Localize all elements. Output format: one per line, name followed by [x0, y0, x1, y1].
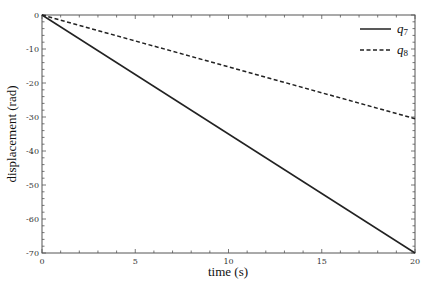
series-line-q8: [42, 15, 415, 119]
legend-label-q8: q8: [397, 42, 409, 58]
y-tick-label: -60: [26, 215, 39, 224]
y-tick-label: -50: [26, 181, 39, 190]
x-tick-label: 15: [317, 257, 327, 266]
legend-label-q7: q7: [397, 21, 409, 37]
legend: q7q8: [360, 21, 409, 58]
y-tick-label: -30: [26, 113, 39, 122]
y-tick-label: -40: [26, 147, 39, 156]
y-axis-label: displacement (rad): [4, 85, 19, 182]
x-tick-label: 0: [39, 257, 44, 266]
y-tick-label: -10: [26, 45, 39, 54]
y-tick-label: -20: [26, 79, 39, 88]
series-line-q7: [42, 15, 415, 253]
x-tick-label: 5: [133, 257, 138, 266]
y-tick-label: 0: [34, 11, 39, 20]
x-tick-label: 20: [410, 257, 420, 266]
x-axis-label: time (s): [208, 264, 248, 279]
line-chart: 051015200-10-20-30-40-50-60-70 time (s) …: [0, 0, 427, 287]
y-tick-label: -70: [26, 249, 39, 258]
